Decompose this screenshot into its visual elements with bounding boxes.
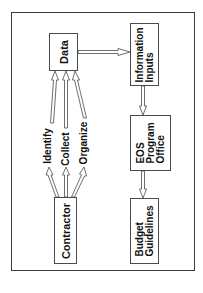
- node-eos-program-office-label: EOS Program Office: [136, 122, 166, 163]
- node-contractor: Contractor: [54, 197, 77, 264]
- eos-line1: EOS: [136, 122, 146, 163]
- arrow-info-to-eos: [140, 86, 147, 115]
- arrow-contractor-to-collect: [63, 167, 70, 197]
- arrow-connectors: [0, 0, 203, 293]
- node-data: Data: [49, 33, 78, 71]
- arrow-contractor-to-identify: [46, 167, 59, 197]
- info-line1: Information: [135, 27, 145, 82]
- node-eos-program-office: EOS Program Office: [130, 115, 171, 171]
- eos-line3: Office: [156, 122, 166, 163]
- info-line2: Inputs: [145, 27, 155, 82]
- node-data-label: Data: [59, 40, 69, 64]
- edge-label-collect: Collect: [61, 132, 71, 165]
- eos-line2: Program: [146, 122, 156, 163]
- node-information-inputs-label: Information Inputs: [135, 27, 155, 82]
- node-contractor-label: Contractor: [61, 202, 71, 258]
- edge-label-organize: Organize: [79, 122, 89, 165]
- budget-line2: Guidelines: [145, 205, 155, 256]
- arrow-organize-to-data: [73, 71, 87, 118]
- arrow-contractor-to-organize: [72, 167, 87, 197]
- node-budget-guidelines: Budget Guidelines: [130, 198, 159, 264]
- budget-line1: Budget: [135, 205, 145, 256]
- edge-label-identify: Identify: [43, 128, 53, 164]
- arrow-collect-to-data: [63, 71, 70, 128]
- arrow-data-to-info: [78, 49, 130, 56]
- arrow-eos-to-budget: [140, 171, 147, 198]
- arrow-identify-to-data: [51, 71, 59, 123]
- node-information-inputs: Information Inputs: [130, 23, 159, 86]
- node-budget-guidelines-label: Budget Guidelines: [135, 205, 155, 256]
